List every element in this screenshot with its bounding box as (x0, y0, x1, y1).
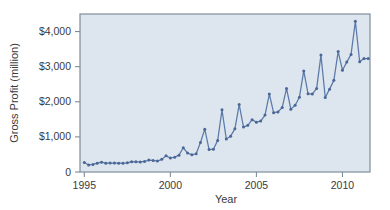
data-point (319, 54, 322, 57)
y-tick-label: $4,000 (39, 25, 71, 37)
x-tick-label: 2000 (159, 179, 183, 191)
x-tick-label: 1995 (73, 179, 97, 191)
data-point (195, 152, 198, 155)
data-point (233, 127, 236, 130)
x-tick-label: 2010 (331, 179, 355, 191)
data-point (350, 53, 353, 56)
data-point (83, 161, 86, 164)
gross-profit-chart: 0$1,000$2,000$3,000$4,000 19952000200520… (0, 0, 390, 210)
data-point (130, 160, 133, 163)
data-point (259, 120, 262, 123)
data-point (134, 160, 137, 163)
data-point (143, 160, 146, 163)
data-point (307, 92, 310, 95)
data-point (324, 96, 327, 99)
data-point (220, 108, 223, 111)
data-point (268, 93, 271, 96)
data-point (238, 103, 241, 106)
data-point (147, 159, 150, 162)
data-point (255, 121, 258, 124)
data-point (122, 162, 125, 165)
y-tick-label: $2,000 (39, 95, 71, 107)
data-point (156, 160, 159, 163)
data-point (362, 57, 365, 60)
data-point (298, 96, 301, 99)
y-tick-label: 0 (65, 166, 71, 178)
data-point (117, 162, 120, 165)
data-point (294, 104, 297, 107)
data-point (281, 106, 284, 109)
y-axis-title: Gross Profit (million) (8, 43, 20, 143)
data-point (311, 93, 314, 96)
data-point (216, 139, 219, 142)
data-point (208, 148, 211, 151)
x-axis-title: Year (215, 193, 238, 205)
data-point (109, 162, 112, 165)
data-point (354, 20, 357, 23)
data-point (100, 161, 103, 164)
data-point (337, 50, 340, 53)
data-point (246, 124, 249, 127)
data-point (328, 88, 331, 91)
data-point (289, 108, 292, 111)
data-point (152, 159, 155, 162)
data-point (264, 114, 267, 117)
data-point (165, 154, 168, 157)
y-tick-label: $1,000 (39, 130, 71, 142)
data-point (113, 162, 116, 165)
data-point (169, 156, 172, 159)
data-point (199, 141, 202, 144)
data-point (225, 138, 228, 141)
data-point (341, 69, 344, 72)
data-point (126, 161, 129, 164)
data-point (186, 152, 189, 155)
data-point (332, 79, 335, 82)
data-point (91, 163, 94, 166)
data-point (229, 135, 232, 138)
data-point (276, 110, 279, 113)
data-point (177, 154, 180, 157)
data-point (315, 87, 318, 90)
data-point (173, 156, 176, 159)
data-point (302, 69, 305, 72)
data-point (139, 160, 142, 163)
data-point (345, 61, 348, 64)
data-point (285, 87, 288, 90)
data-point (203, 128, 206, 131)
plot-area-background (80, 14, 370, 172)
data-point (358, 60, 361, 63)
data-point (104, 162, 107, 165)
y-tick-label: $3,000 (39, 60, 71, 72)
data-point (242, 126, 245, 129)
data-point (272, 111, 275, 114)
data-point (160, 158, 163, 161)
x-tick-label: 2005 (245, 179, 269, 191)
data-point (190, 153, 193, 156)
data-point (212, 148, 215, 151)
data-point (251, 118, 254, 121)
data-point (96, 162, 99, 165)
data-point (367, 57, 370, 60)
data-point (182, 146, 185, 149)
data-point (87, 163, 90, 166)
